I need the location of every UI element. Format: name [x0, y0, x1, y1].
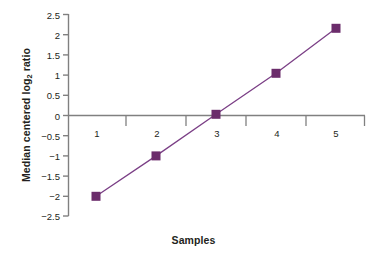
- x-axis-ticks: [126, 116, 365, 127]
- x-tick-label: 3: [214, 128, 219, 139]
- data-point-marker[interactable]: [92, 192, 101, 201]
- x-tick-label: 2: [154, 128, 159, 139]
- x-tick-label: 5: [333, 128, 338, 139]
- x-tick-label: 1: [94, 128, 99, 139]
- x-tick-label: 4: [274, 128, 279, 139]
- y-axis-ticks: [63, 15, 69, 217]
- data-point-marker[interactable]: [152, 151, 161, 160]
- data-point-marker[interactable]: [212, 110, 221, 119]
- data-point-marker[interactable]: [332, 24, 341, 33]
- chart-figure: 2.5 2 1.5 1 0.5 0 −0.5 −1 −1.5 −2 −2.5 1…: [0, 0, 387, 262]
- x-axis-title: Samples: [0, 234, 387, 246]
- y-axis-title-text: Median centered log2 ratio: [20, 48, 32, 182]
- y-axis-title: Median centered log2 ratio: [14, 0, 38, 230]
- data-point-marker[interactable]: [272, 69, 281, 78]
